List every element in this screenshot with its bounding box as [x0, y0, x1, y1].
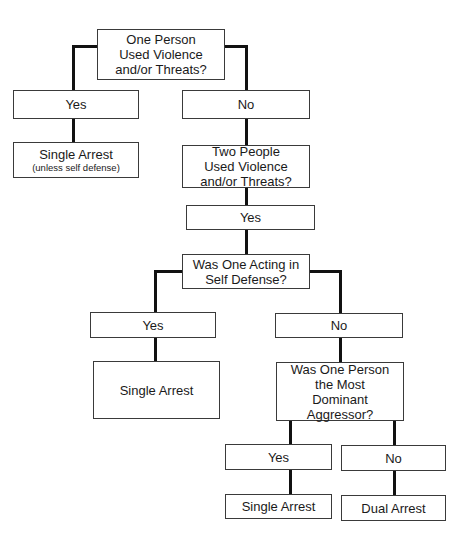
answer-yes-3: Yes — [90, 312, 216, 338]
connector — [339, 270, 342, 314]
answer-yes-1: Yes — [13, 90, 139, 119]
connector — [72, 118, 75, 143]
question-dominant-aggressor: Was One Person the Most Dominant Aggress… — [276, 362, 404, 421]
result-single-arrest-3: Single Arrest — [225, 494, 332, 519]
answer-yes-4: Yes — [225, 444, 332, 470]
answer-no-1: No — [182, 90, 310, 119]
answer-no-3: No — [275, 313, 403, 338]
connector — [289, 469, 292, 495]
connector — [245, 187, 248, 206]
connector — [393, 420, 396, 446]
result-dual-arrest: Dual Arrest — [341, 495, 446, 521]
connector — [245, 229, 248, 255]
connector — [72, 45, 75, 91]
question-self-defense: Was One Acting in Self Defense? — [182, 254, 310, 289]
connector — [309, 270, 342, 273]
answer-yes-2: Yes — [186, 205, 315, 230]
connector — [245, 45, 248, 91]
result-single-arrest-2: Single Arrest — [93, 361, 220, 419]
connector — [72, 45, 98, 48]
connector — [339, 337, 342, 363]
connector — [154, 270, 183, 273]
question-two-people: Two People Used Violence and/or Threats? — [182, 145, 310, 188]
question-one-person: One Person Used Violence and/or Threats? — [97, 29, 225, 80]
connector — [289, 420, 292, 445]
answer-no-4: No — [341, 445, 446, 471]
connector — [154, 337, 157, 362]
connector — [393, 470, 396, 496]
connector — [245, 118, 248, 146]
result-single-arrest-unless: Single Arrest (unless self defense) — [13, 142, 139, 178]
connector — [154, 270, 157, 313]
